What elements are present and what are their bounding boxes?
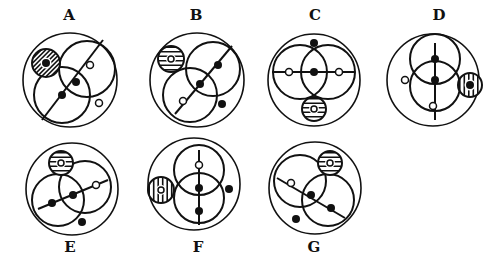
inner-circle-icon	[302, 174, 354, 226]
filled-dot-icon	[195, 207, 203, 215]
open-dot-icon	[93, 182, 100, 189]
figures-canvas: ABCDEFG	[0, 0, 503, 263]
filled-dot-icon	[78, 218, 86, 226]
hatched-circle-icon	[158, 38, 184, 78]
figure-f[interactable]: F	[140, 138, 240, 256]
filled-dot-icon	[48, 199, 56, 207]
filled-dot-icon	[431, 76, 439, 84]
filled-dot-icon	[310, 39, 318, 47]
puzzle-figure-grid: ABCDEFG	[0, 0, 503, 263]
inner-circle-icon	[59, 41, 115, 97]
open-dot-icon	[402, 77, 409, 84]
figure-label: D	[432, 6, 445, 24]
filled-dot-icon	[225, 185, 233, 193]
filled-dot-icon	[218, 100, 226, 108]
filled-dot-icon	[292, 215, 300, 223]
hatched-circle-icon	[451, 73, 487, 97]
filled-dot-icon	[72, 78, 80, 86]
filled-dot-icon	[196, 80, 204, 88]
filled-dot-icon	[310, 68, 318, 76]
open-dot-icon	[180, 98, 187, 105]
filled-dot-icon	[58, 91, 66, 99]
filled-dot-icon	[307, 191, 315, 199]
figure-g[interactable]: G	[269, 142, 361, 256]
filled-dot-icon	[327, 204, 335, 212]
figure-e[interactable]: E	[26, 143, 118, 256]
hatched-circle-icon	[10, 49, 79, 77]
filled-dot-icon	[431, 55, 439, 63]
open-dot-icon	[288, 180, 295, 187]
open-dot-icon	[336, 69, 343, 76]
figure-label: C	[309, 6, 321, 24]
figure-b[interactable]: B	[150, 6, 244, 127]
open-dot-icon	[286, 69, 293, 76]
figure-label: F	[193, 238, 204, 256]
open-dot-icon	[430, 103, 437, 110]
outer-circle-icon	[269, 142, 361, 234]
open-dot-icon	[196, 162, 203, 169]
figure-label: G	[308, 238, 321, 256]
figure-a[interactable]: A	[10, 6, 117, 127]
figure-label: B	[190, 6, 203, 24]
open-dot-icon	[87, 62, 94, 69]
filled-dot-icon	[214, 61, 222, 69]
figure-d[interactable]: D	[387, 6, 487, 126]
figure-label: E	[64, 238, 75, 256]
figure-c[interactable]: C	[268, 6, 360, 126]
filled-dot-icon	[195, 184, 203, 192]
filled-dot-icon	[69, 191, 77, 199]
open-dot-icon	[96, 100, 103, 107]
figure-label: A	[62, 6, 75, 24]
